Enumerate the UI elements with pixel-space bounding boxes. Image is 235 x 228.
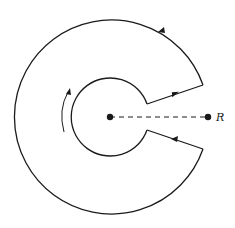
lower-segment-arrow-icon <box>171 136 178 142</box>
origin-point <box>107 114 113 120</box>
orientation-arrowhead-icon <box>66 88 71 95</box>
point-r-label: R <box>215 111 224 124</box>
outer-arc-arrow-icon <box>158 27 165 33</box>
point-r <box>205 114 211 120</box>
orientation-arrow <box>62 92 68 132</box>
upper-segment-arrow-icon <box>172 92 179 98</box>
keyhole-contour-diagram: R <box>0 0 235 228</box>
